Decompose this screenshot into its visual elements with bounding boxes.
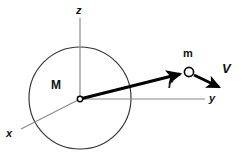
axis-label-z: z — [76, 5, 82, 16]
velocity-vector-label-V: V — [222, 62, 231, 75]
velocity-vector-arrow — [194, 75, 219, 87]
central-body-label-M: M — [51, 79, 61, 91]
orbiting-mass-point — [184, 67, 193, 76]
diagram-canvas — [0, 0, 242, 158]
orbital-vector-diagram: z y x M m r V — [0, 0, 242, 158]
orbiting-body-label-m: m — [183, 48, 193, 59]
position-vector-arrow — [80, 74, 180, 99]
position-vector-label-r: r — [168, 78, 173, 90]
origin-point — [77, 96, 82, 101]
axis-label-x: x — [6, 128, 12, 139]
axis-label-y: y — [209, 93, 215, 104]
